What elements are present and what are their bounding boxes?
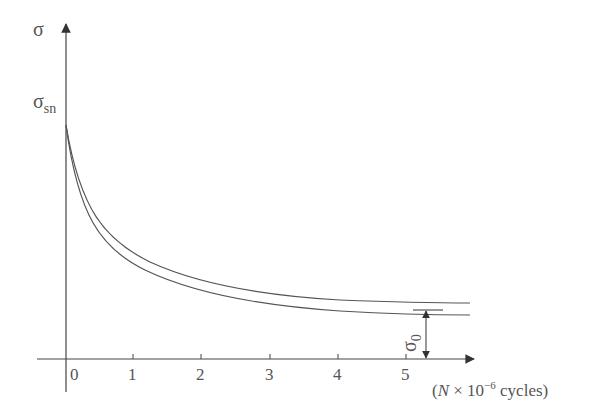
x-tick-label-1: 1 [128, 365, 137, 385]
x-tick-label-3: 3 [265, 365, 274, 385]
sigma-0-symbol: σ [398, 341, 420, 352]
x-label-rest: cycles) [496, 381, 548, 400]
sigma-0-label: σ0 [398, 334, 425, 352]
fatigue-chart [0, 0, 607, 415]
sigma-sn-subscript: sn [44, 101, 56, 116]
lower-curve [66, 125, 470, 315]
x-tick-label-2: 2 [196, 365, 205, 385]
x-label-exp: −6 [484, 379, 496, 391]
x-label-var: N [438, 381, 449, 400]
x-label-times: × 10 [449, 381, 484, 400]
x-tick-label-4: 4 [333, 365, 342, 385]
x-axis-label: (N × 10−6 cycles) [432, 379, 548, 401]
sigma-sn-symbol: σ [33, 90, 44, 112]
x-ticks [133, 354, 406, 359]
y-axis-label: σ [33, 18, 44, 41]
x-tick-label-5: 5 [401, 365, 410, 385]
upper-curve [66, 125, 470, 303]
sigma-0-subscript: 0 [409, 334, 424, 341]
x-tick-label-0: 0 [70, 365, 79, 385]
sigma-sn-label: σsn [33, 90, 56, 117]
